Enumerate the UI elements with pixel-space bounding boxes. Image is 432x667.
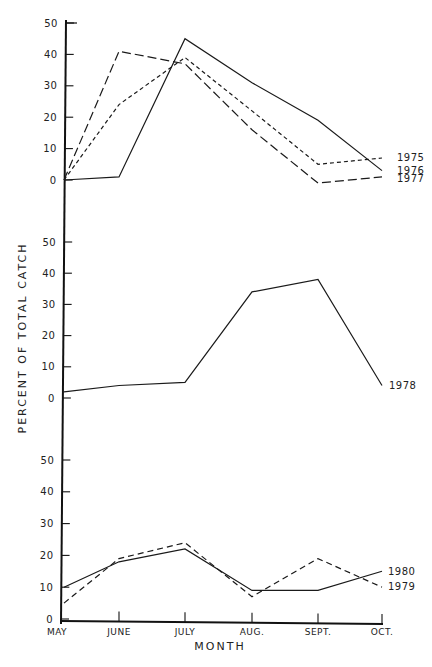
series-label-1975: 1975 xyxy=(397,152,424,163)
y-axis-line xyxy=(61,20,66,624)
series-layer xyxy=(64,39,382,603)
axes xyxy=(61,20,383,624)
y-tick-label: 20 xyxy=(40,550,54,561)
series-line-1976 xyxy=(64,39,382,180)
y-tick-label: 0 xyxy=(48,393,55,404)
y-tick-label: 50 xyxy=(44,18,58,29)
y-axis-title: PERCENT OF TOTAL CATCH xyxy=(16,242,29,433)
y-tick-label: 50 xyxy=(41,455,55,466)
y-tick-label: 0 xyxy=(50,175,57,186)
series-label-1979: 1979 xyxy=(388,581,415,592)
series-label-1980: 1980 xyxy=(388,566,415,577)
x-axis-title: MONTH xyxy=(194,640,245,653)
y-tick-label: 10 xyxy=(41,361,55,372)
y-tick-label: 30 xyxy=(42,299,56,310)
series-line-1980 xyxy=(64,549,382,590)
x-tick-label-july: JULY xyxy=(174,627,196,637)
series-line-1975 xyxy=(64,58,382,181)
y-tick-label: 30 xyxy=(40,518,54,529)
x-tick-label-sept: SEPT. xyxy=(305,627,332,637)
x-tick-label-aug: AUG. xyxy=(240,627,265,637)
y-tick-label: 30 xyxy=(44,80,58,91)
y-tick-label: 10 xyxy=(43,143,57,154)
series-line-1977 xyxy=(64,51,382,183)
series-label-1978: 1978 xyxy=(389,380,416,391)
x-axis-line xyxy=(61,621,383,624)
series-line-1978 xyxy=(64,279,382,391)
x-tick-label-oct: OCT. xyxy=(371,627,394,637)
catch-percentage-chart: 0102030405001020304050010203040501975197… xyxy=(0,0,432,667)
y-tick-label: 10 xyxy=(40,582,54,593)
y-tick-label: 40 xyxy=(42,268,56,279)
series-label-1977: 1977 xyxy=(397,173,424,184)
y-tick-label: 0 xyxy=(46,614,53,625)
x-tick-label-june: JUNE xyxy=(106,627,131,637)
y-tick-label: 40 xyxy=(40,486,54,497)
y-tick-label: 20 xyxy=(43,112,57,123)
y-tick-label: 40 xyxy=(44,49,58,60)
y-tick-label: 20 xyxy=(42,330,56,341)
x-tick-label-may: MAY xyxy=(47,627,67,637)
y-tick-label: 50 xyxy=(42,237,56,248)
